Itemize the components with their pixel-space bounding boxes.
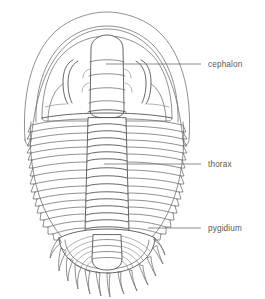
thorax-rib-left-11 (37, 193, 86, 199)
pyg-spine-7 (107, 273, 110, 297)
thorax-rib-left-4 (31, 140, 88, 146)
left-spine-16 (53, 234, 58, 240)
pyg-spine-6 (96, 272, 101, 296)
right-spine-7 (181, 168, 184, 176)
left-spine-14 (43, 220, 48, 227)
thorax-rib-right-11 (128, 193, 177, 199)
pyg-spine-12 (153, 246, 163, 264)
left-spine-10 (33, 192, 37, 199)
thorax-rib-right-6 (126, 154, 182, 160)
thorax-rib-left-6 (32, 154, 88, 160)
thorax-rib-left-9 (34, 178, 87, 184)
right-spine-14 (166, 220, 171, 227)
label-thorax: thorax (208, 161, 232, 169)
thorax-rib-right-5 (126, 147, 183, 153)
thorax-rib-right-10 (127, 186, 179, 192)
thorax-rib-left-14 (44, 214, 86, 220)
thorax-rib-left-7 (33, 162, 87, 168)
left-spine-11 (35, 199, 39, 206)
thorax-rib-right-8 (127, 170, 181, 176)
right-spine-11 (175, 199, 179, 206)
right-spine-10 (177, 192, 181, 199)
thorax-rib-right-3 (126, 133, 183, 139)
thorax-rib-right-12 (128, 200, 175, 206)
thorax-group (27, 118, 187, 240)
thorax-axial-lobe (85, 118, 129, 237)
right-spine-13 (170, 213, 174, 220)
pyg-spine-2 (59, 248, 66, 271)
left-spine-13 (40, 213, 44, 220)
thorax-rib-left-5 (31, 147, 88, 153)
label-cephalon: cephalon (208, 61, 242, 69)
right-spine-8 (180, 176, 184, 184)
trilobite-diagram: .ln { fill:none; stroke:#6b6b6e; stroke-… (0, 0, 265, 299)
pyg-spine-5 (85, 270, 90, 294)
thorax-rib-left-2 (31, 126, 88, 132)
left-spine-9 (31, 184, 35, 192)
right-spine-9 (179, 184, 183, 192)
thorax-rib-left-12 (39, 200, 86, 206)
thorax-rib-right-4 (126, 140, 183, 146)
glabella-outline (90, 35, 124, 118)
thorax-rib-left-3 (31, 133, 88, 139)
label-pygidium: pygidium (208, 225, 242, 233)
pyg-spine-4 (75, 265, 81, 289)
right-spine-16 (156, 234, 161, 240)
thorax-rib-right-7 (127, 162, 181, 168)
pyg-spine-10 (139, 265, 148, 285)
thorax-rib-right-13 (128, 207, 173, 213)
left-spine-7 (30, 168, 33, 176)
thorax-rib-right-14 (128, 214, 170, 220)
pyg-spine-11 (147, 257, 156, 276)
thorax-rib-right-2 (126, 126, 183, 132)
left-spine-15 (48, 227, 53, 234)
left-spine-12 (37, 206, 41, 213)
pygidium-group (50, 229, 165, 297)
pyg-spine-8 (118, 272, 124, 294)
pyg-spine-9 (129, 270, 137, 291)
left-spine-8 (30, 176, 34, 184)
thorax-rib-right-9 (127, 178, 180, 184)
thorax-rib-left-10 (35, 186, 87, 192)
trilobite-illustration: .ln { fill:none; stroke:#6b6b6e; stroke-… (0, 0, 265, 299)
thorax-rib-left-13 (41, 207, 86, 213)
thorax-rib-left-8 (33, 170, 87, 176)
right-spine-12 (173, 206, 177, 213)
